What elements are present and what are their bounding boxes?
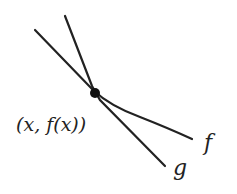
curve-g-label: g bbox=[173, 155, 187, 180]
tangency-point bbox=[90, 88, 100, 98]
curve-f-label: f bbox=[202, 130, 216, 155]
diagram-svg: (x, f(x)) f g bbox=[0, 0, 237, 194]
tangent-diagram: (x, f(x)) f g bbox=[0, 0, 237, 194]
line-g bbox=[65, 16, 165, 166]
point-label: (x, f(x)) bbox=[16, 113, 86, 135]
